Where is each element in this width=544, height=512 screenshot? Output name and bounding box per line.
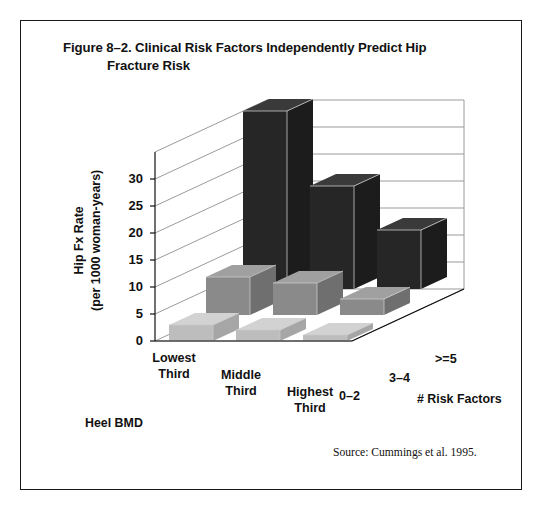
source-note: Source: Cummings et al. 1995. — [333, 446, 477, 459]
category-label-highest-line2: Third — [271, 401, 349, 417]
category-label-middle-line1: Middle — [204, 368, 278, 384]
bar-highest-low[interactable] — [303, 323, 373, 341]
category-label-lowest-line1: Lowest — [137, 351, 211, 367]
category-label-highest: Highest Third — [271, 385, 349, 416]
depth-label-ge5: >=5 — [435, 352, 457, 366]
figure-frame: Figure 8–2. Clinical Risk Factors Indepe… — [20, 20, 522, 490]
y-axis-title-line1: Hip Fx Rate — [71, 170, 88, 311]
y-axis-title-line2: (per 1000 woman-years) — [88, 170, 105, 311]
bar-middle-low[interactable] — [236, 318, 306, 341]
bar-group-high — [243, 99, 447, 289]
y-tick-25: 25 — [109, 198, 143, 213]
category-label-middle-line2: Third — [204, 384, 278, 400]
x-axis-title: Heel BMD — [85, 416, 143, 430]
y-axis-title: Hip Fx Rate (per 1000 woman-years) — [71, 170, 104, 311]
bar-highest-mid[interactable] — [340, 287, 410, 315]
category-label-highest-line1: Highest — [271, 385, 349, 401]
y-tick-30: 30 — [109, 171, 143, 186]
bar-lowest-high[interactable] — [243, 99, 313, 289]
depth-label-3-4: 3–4 — [389, 371, 410, 385]
bar-lowest-mid[interactable] — [206, 265, 276, 315]
category-label-lowest: Lowest Third — [137, 351, 211, 382]
y-tick-15: 15 — [109, 252, 143, 267]
bar-lowest-low[interactable] — [169, 313, 239, 341]
y-tick-5: 5 — [109, 306, 143, 321]
y-axis — [150, 152, 155, 341]
z-axis-title: # Risk Factors — [417, 392, 502, 406]
bar-highest-high[interactable] — [377, 218, 447, 289]
y-tick-10: 10 — [109, 279, 143, 294]
category-label-lowest-line2: Third — [137, 367, 211, 383]
y-tick-20: 20 — [109, 225, 143, 240]
category-label-middle: Middle Third — [204, 368, 278, 399]
y-tick-0: 0 — [109, 333, 143, 348]
depth-label-0-2: 0–2 — [339, 389, 360, 403]
bar-group-low — [169, 313, 373, 341]
